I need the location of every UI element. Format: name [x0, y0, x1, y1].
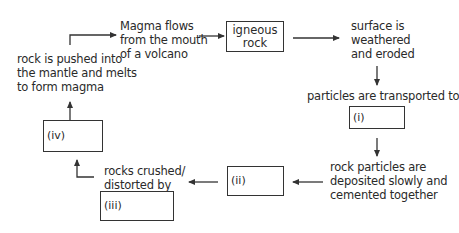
weathered-line-1: surface is — [351, 19, 415, 33]
node-transported: particles are transported to — [307, 89, 459, 103]
box-iv-label: (iv) — [47, 129, 65, 142]
deposited-line-2: deposited slowly and — [330, 174, 447, 188]
box-i[interactable]: (i) — [349, 106, 405, 129]
node-melts: rock is pushed into the mantle and melts… — [17, 52, 137, 94]
magma-line-1: Magma flows — [120, 19, 207, 33]
igneous-line-1: igneous — [232, 24, 277, 37]
crushed-line-1: rocks crushed/ — [104, 164, 185, 178]
igneous-line-2: rock — [243, 37, 268, 50]
deposited-line-3: cemented together — [330, 188, 447, 202]
melts-line-3: to form magma — [17, 80, 137, 94]
melts-line-1: rock is pushed into — [17, 52, 137, 66]
deposited-line-1: rock particles are — [330, 160, 447, 174]
box-ii[interactable]: (ii) — [227, 166, 284, 196]
arrow-crushed-to-iv — [77, 160, 94, 177]
box-iv[interactable]: (iv) — [43, 120, 103, 152]
magma-line-2: from the mouth — [120, 33, 207, 47]
crushed-line-2: distorted by — [104, 178, 185, 192]
box-iii[interactable]: (iii) — [100, 191, 174, 221]
node-crushed: rocks crushed/ distorted by — [104, 164, 185, 192]
weathered-line-3: and eroded — [351, 47, 415, 61]
node-weathered: surface is weathered and eroded — [351, 19, 415, 61]
weathered-line-2: weathered — [351, 33, 415, 47]
box-i-label: (i) — [353, 111, 365, 124]
node-igneous-rock: igneous rock — [226, 21, 284, 52]
arrow-melts-to-magma — [70, 35, 116, 45]
melts-line-2: the mantle and melts — [17, 66, 137, 80]
node-deposited: rock particles are deposited slowly and … — [330, 160, 447, 202]
box-iii-label: (iii) — [104, 199, 122, 212]
box-ii-label: (ii) — [231, 174, 246, 187]
